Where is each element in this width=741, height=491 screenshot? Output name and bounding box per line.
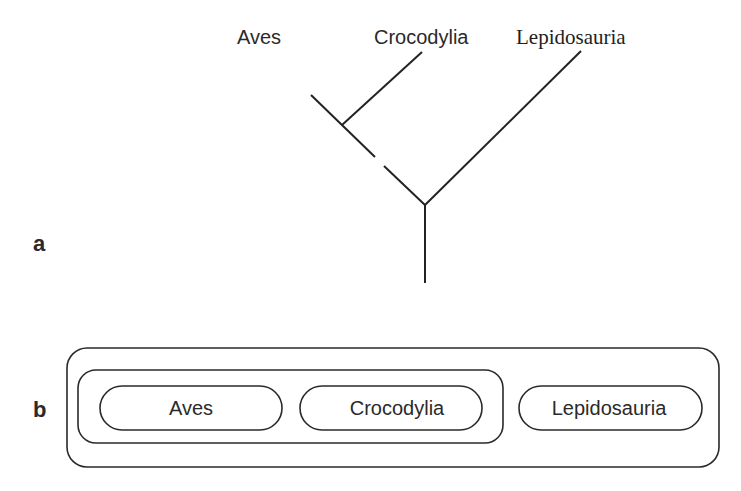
branch-archosauria-lower: [384, 166, 425, 205]
branch-crocodylia: [342, 52, 422, 125]
set-label-lepidosauria: Lepidosauria: [552, 397, 667, 419]
panel-label-b: b: [33, 397, 46, 422]
taxon-label-crocodylia: Crocodylia: [374, 26, 469, 48]
panel-b-nested-sets: b Aves Crocodylia Lepidosauria: [33, 348, 719, 467]
panel-label-a: a: [33, 231, 46, 256]
set-label-aves: Aves: [169, 397, 213, 419]
phylogeny-figure: a Aves Crocodylia Lepidosauria b Aves Cr…: [0, 0, 741, 491]
taxon-label-lepidosauria: Lepidosauria: [516, 25, 626, 49]
panel-a-cladogram: a Aves Crocodylia Lepidosauria: [33, 25, 626, 283]
taxon-label-aves: Aves: [237, 26, 281, 48]
set-label-crocodylia: Crocodylia: [350, 397, 445, 419]
branch-lepidosauria: [425, 51, 581, 205]
